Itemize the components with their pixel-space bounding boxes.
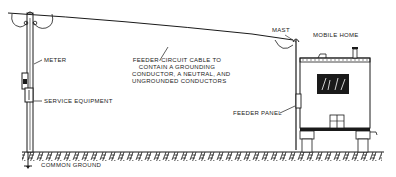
mobile-home bbox=[300, 47, 377, 152]
feeder-cable-label-line4: UNGROUNDED CONDUCTORS bbox=[132, 78, 222, 85]
meter-label: METER bbox=[44, 57, 67, 64]
feeder-cable bbox=[8, 13, 293, 60]
feeder-panel bbox=[280, 94, 301, 113]
service-equipment bbox=[25, 88, 33, 102]
common-ground-label: COMMON GROUND bbox=[41, 162, 101, 169]
feeder-panel-label: FEEDER PANEL bbox=[233, 110, 282, 117]
diagram-canvas: METER SERVICE EQUIPMENT COMMON GROUND MA… bbox=[0, 0, 396, 177]
meter bbox=[22, 73, 28, 89]
utility-pole bbox=[12, 12, 53, 152]
mobile-home-label: MOBILE HOME bbox=[313, 32, 359, 39]
feeder-cable-label-line2: CONTAIN A GROUNDING bbox=[132, 64, 222, 71]
mast-label: MAST bbox=[272, 27, 290, 34]
feeder-cable-label: FEEDER-CIRCUIT CABLE TO CONTAIN A GROUND… bbox=[132, 57, 222, 85]
service-equipment-label: SERVICE EQUIPMENT bbox=[44, 98, 113, 105]
meter-leader bbox=[34, 60, 42, 64]
feeder-cable-label-line3: CONDUCTOR, A NEUTRAL, AND bbox=[132, 71, 222, 78]
ground-surface bbox=[22, 152, 384, 161]
diagram-drawing bbox=[0, 0, 396, 177]
mast bbox=[285, 35, 299, 150]
feeder-cable-label-line1: FEEDER-CIRCUIT CABLE TO bbox=[132, 57, 222, 64]
window bbox=[317, 74, 349, 94]
